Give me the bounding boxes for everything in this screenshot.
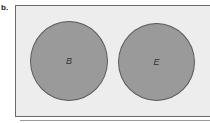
set-e-circle: E (118, 23, 195, 101)
divider-line (20, 120, 210, 121)
set-e-label: E (153, 57, 159, 67)
set-b-label: B (66, 56, 72, 66)
figure-label: b. (1, 3, 8, 12)
set-b-circle: B (30, 21, 108, 101)
